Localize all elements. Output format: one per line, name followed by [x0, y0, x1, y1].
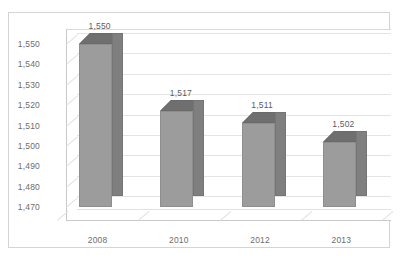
gridline [77, 74, 391, 75]
chart-root: 1,5501,5401,5301,5201,5101,5001,4901,480… [0, 0, 402, 260]
bar-2008[interactable] [79, 33, 123, 207]
value-axis-tick-label: 1,550 [0, 39, 40, 49]
bar-2012[interactable] [242, 112, 286, 207]
category-label-2013: 2013 [306, 235, 376, 245]
bar-side-face [275, 112, 286, 196]
value-axis-tick-label: 1,490 [0, 161, 40, 171]
gridline [77, 115, 391, 116]
gridline [77, 94, 391, 95]
category-label-2012: 2012 [225, 235, 295, 245]
bar-front-face [160, 111, 193, 207]
bar-front-face [323, 142, 356, 207]
bar-front-face [79, 44, 112, 207]
bar-side-face [112, 33, 123, 196]
value-axis-tick-label: 1,500 [0, 141, 40, 151]
gridline [77, 53, 391, 54]
bar-2010[interactable] [160, 100, 204, 207]
category-label-2008: 2008 [63, 235, 133, 245]
bar-2013[interactable] [323, 131, 367, 207]
gridline [77, 33, 391, 34]
bar-side-face [193, 100, 204, 196]
data-label-2008: 1,550 [70, 21, 130, 31]
category-label-2010: 2010 [144, 235, 214, 245]
plot-floor-back-edge [77, 209, 391, 210]
category-axis-line [66, 220, 391, 221]
value-axis-tick-label: 1,540 [0, 59, 40, 69]
value-axis-tick-label: 1,480 [0, 182, 40, 192]
value-axis-tick-label: 1,510 [0, 121, 40, 131]
bar-front-face [242, 123, 275, 207]
data-label-2012: 1,511 [232, 100, 292, 110]
bar-side-face [356, 131, 367, 196]
value-axis-tick-label: 1,520 [0, 100, 40, 110]
chart-frame: 1,5501,5401,5301,5201,5101,5001,4901,480… [8, 12, 390, 248]
data-label-2010: 1,517 [151, 88, 211, 98]
value-axis-tick-label: 1,530 [0, 80, 40, 90]
data-label-2013: 1,502 [313, 119, 373, 129]
value-axis-tick-label: 1,470 [0, 202, 40, 212]
